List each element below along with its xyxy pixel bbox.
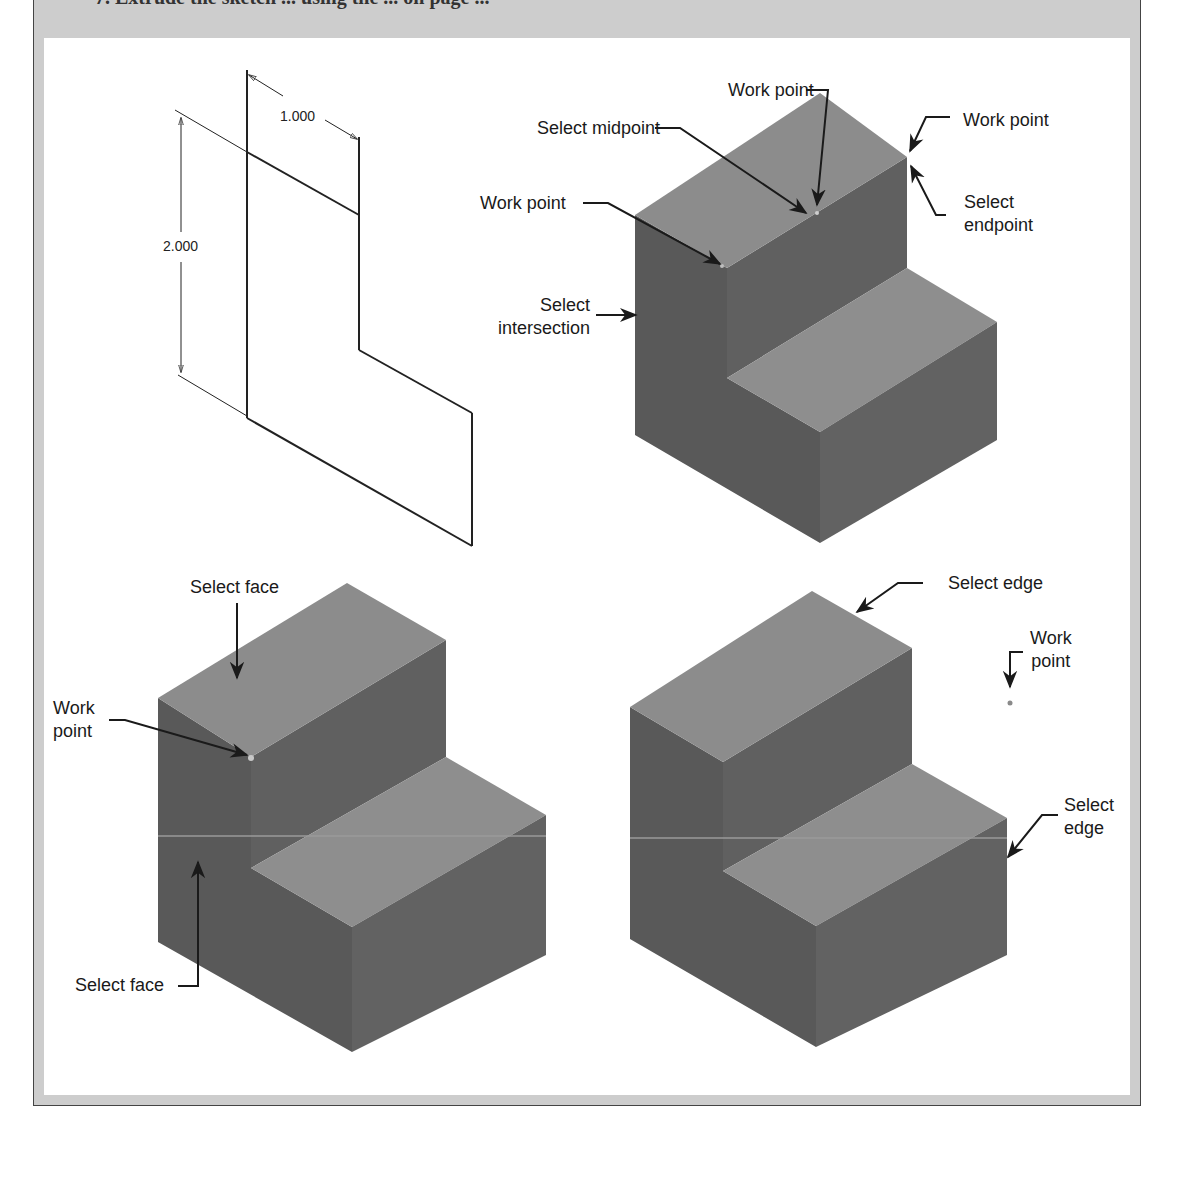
label-work-point-edges: Work point (1030, 627, 1072, 673)
label-work-point-faces: Work point (53, 697, 95, 743)
stepped-block-bottom-right (630, 591, 1013, 1047)
label-work-point-intersection: Work point (480, 192, 566, 215)
label-select-edge-right: Select edge (1064, 794, 1114, 840)
label-select-endpoint: Select endpoint (964, 191, 1033, 237)
label-select-midpoint: Select midpoint (537, 117, 660, 140)
label-select-intersection: Select intersection (470, 294, 590, 340)
label-work-point-midpoint: Work point (728, 79, 814, 102)
label-select-face-bottom: Select face (75, 974, 164, 997)
profile-sketch (175, 70, 472, 546)
dimension-width: 1.000 (279, 108, 316, 124)
stepped-block-bottom-left (158, 583, 546, 1052)
label-select-face-top: Select face (190, 576, 279, 599)
stepped-block-top-right (635, 93, 997, 543)
label-select-edge-top: Select edge (948, 572, 1043, 595)
dimension-height: 2.000 (162, 238, 199, 254)
label-work-point-endpoint: Work point (963, 109, 1049, 132)
